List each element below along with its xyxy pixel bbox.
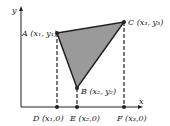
point-f	[122, 105, 126, 109]
x-axis-label: x	[139, 97, 144, 106]
triangle-abc	[57, 22, 124, 88]
point-e	[75, 105, 79, 109]
point-c	[122, 20, 126, 24]
y-axis-label: y	[11, 6, 17, 15]
point-d	[55, 105, 59, 109]
label-c: C (x₃, y₃)	[128, 18, 163, 27]
point-b	[75, 86, 79, 90]
label-d: D (x₁,0)	[32, 114, 64, 123]
label-a: A (x₁, y₁)	[21, 29, 57, 38]
y-axis-arrow-icon	[19, 6, 23, 11]
triangle-diagram: y x A (x₁, y₁) C (x₃, y₃) B (x₂, y₂) D (…	[0, 0, 170, 126]
label-f: F (x₃,0)	[116, 114, 147, 123]
label-b: B (x₂, y₂)	[80, 87, 116, 96]
label-e: E (x₂,0)	[69, 114, 100, 123]
